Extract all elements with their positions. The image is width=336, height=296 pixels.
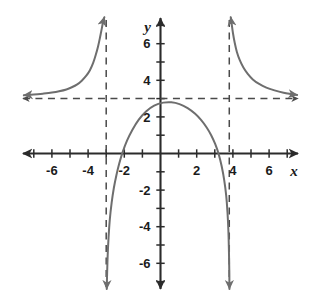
x-tick-label: 4 xyxy=(229,163,237,178)
y-tick-label: -2 xyxy=(139,183,151,198)
x-tick-label: 6 xyxy=(265,163,272,178)
curve-right-branch xyxy=(231,17,297,95)
axes-layer xyxy=(23,18,298,289)
coordinate-plane: -6-4-2246642-2-4-6 xy xyxy=(0,0,336,296)
curve-middle-branch xyxy=(107,102,230,289)
x-tick-label: 2 xyxy=(193,163,200,178)
y-tick-label: 2 xyxy=(143,110,150,125)
y-tick-label: 6 xyxy=(143,36,150,51)
y-tick-label: 4 xyxy=(143,73,151,88)
x-tick-label: -6 xyxy=(46,163,58,178)
x-tick-label: -2 xyxy=(119,163,131,178)
y-tick-label: -6 xyxy=(139,256,151,271)
curve-left-branch xyxy=(24,17,105,95)
x-axis-name: x xyxy=(289,163,298,179)
x-tick-label: -4 xyxy=(82,163,94,178)
graph-figure: -6-4-2246642-2-4-6 xy xyxy=(0,0,336,296)
y-axis-name: y xyxy=(142,19,151,35)
y-tick-label: -4 xyxy=(139,219,151,234)
